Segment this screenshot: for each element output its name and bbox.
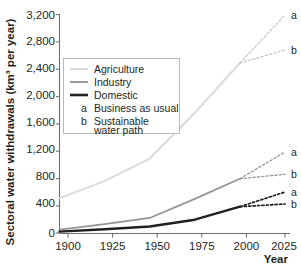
scenario-annotations: ababab: [291, 9, 297, 210]
legend-label-business-as-usual: Business as usual: [94, 102, 179, 114]
y-tick-2400: 2,400: [26, 62, 55, 74]
series-line-industry: [60, 179, 240, 230]
annotation-industry-b: b: [291, 168, 297, 180]
x-tick-marks: [68, 234, 285, 238]
y-tick-2800: 2,800: [26, 35, 55, 47]
x-tick-1900: 1900: [55, 240, 81, 252]
legend-label-domestic: Domestic: [94, 89, 138, 101]
legend-code-b: b: [81, 115, 87, 127]
series-line-domestic: [60, 207, 240, 232]
y-tick-0: 0: [49, 227, 55, 239]
x-tick-1975: 1975: [189, 240, 215, 252]
legend: Agriculture Industry Domestic a Business…: [64, 59, 180, 136]
x-axis-title: Year: [264, 253, 289, 265]
annotation-agriculture-b: b: [291, 44, 297, 56]
y-tick-3200: 3,200: [26, 9, 55, 21]
annotation-domestic-b: b: [291, 198, 297, 210]
chart-canvas: Sectoral water withdrawals (km³ per year…: [0, 0, 301, 265]
projection-industry-b: [240, 174, 285, 178]
legend-label-agriculture: Agriculture: [94, 63, 144, 75]
y-tick-1600: 1,600: [26, 116, 55, 128]
legend-label-industry: Industry: [94, 76, 132, 88]
x-tick-1925: 1925: [100, 240, 126, 252]
y-axis-title: Sectoral water withdrawals (km³ per year…: [4, 18, 16, 245]
water-withdrawals-chart: Sectoral water withdrawals (km³ per year…: [0, 0, 301, 265]
y-tick-400: 400: [36, 197, 55, 209]
legend-code-a: a: [81, 102, 87, 114]
x-tick-2000: 2000: [234, 240, 260, 252]
projection-industry-a: [240, 152, 285, 179]
legend-label-sustainable-line2: water path: [93, 124, 143, 136]
x-tick-1950: 1950: [144, 240, 170, 252]
y-tick-800: 800: [36, 170, 55, 182]
projection-agriculture-a: [240, 15, 285, 63]
x-tick-2025: 2025: [271, 240, 297, 252]
y-tick-1200: 1,200: [26, 143, 55, 155]
annotation-domestic-a: a: [291, 186, 297, 198]
annotation-industry-a: a: [291, 146, 297, 158]
annotation-agriculture-a: a: [291, 9, 297, 21]
y-tick-2000: 2,000: [26, 89, 55, 101]
